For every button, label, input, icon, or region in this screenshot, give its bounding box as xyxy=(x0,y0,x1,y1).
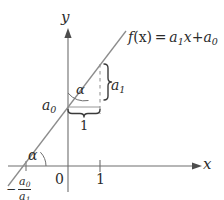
x-intercept-numerator-subscript: 0 xyxy=(26,180,31,189)
function-line xyxy=(8,31,126,186)
y-intercept-label: a0 xyxy=(42,98,56,112)
y-intercept-subscript: 0 xyxy=(50,104,56,115)
equation-intercept-coef: a xyxy=(203,29,211,45)
equation-slope-coef: a xyxy=(169,29,177,45)
y-axis-label: y xyxy=(61,10,69,25)
x-intercept-denominator: a1 xyxy=(18,191,31,200)
x-intercept-numerator: a0 xyxy=(18,176,31,188)
x-intercept-label: −a0a1 xyxy=(6,176,31,200)
run-label: 1 xyxy=(80,119,88,132)
x-tick-label-1: 1 xyxy=(96,172,105,186)
x-intercept-denominator-symbol: a xyxy=(19,190,26,200)
x-axis-label: x xyxy=(203,157,211,172)
run-brace xyxy=(68,110,100,118)
x-intercept-fraction: a0a1 xyxy=(18,176,31,200)
x-axis xyxy=(8,162,202,169)
origin-label: 0 xyxy=(55,172,64,186)
equation-slope-subscript: 1 xyxy=(178,36,184,47)
angle-label-at-x-intercept: α xyxy=(28,148,37,162)
equation-equals: = xyxy=(155,29,167,45)
equation-variable-x: x xyxy=(184,29,192,45)
rise-label: a1 xyxy=(111,78,125,92)
rise-subscript: 1 xyxy=(119,84,125,95)
x-intercept-denominator-subscript: 1 xyxy=(26,195,31,200)
equation-of-x: (x) xyxy=(133,29,152,45)
equation-plus: + xyxy=(192,29,204,45)
y-axis-arrowhead xyxy=(64,28,71,38)
equation-label: f(x) = a1x+a0 xyxy=(128,30,218,44)
x-axis-arrowhead xyxy=(192,162,202,169)
x-intercept-minus-sign: − xyxy=(6,183,16,195)
angle-label-at-y-intercept: α xyxy=(76,83,85,96)
linear-function-figure: y x 0 1 a0 a1 1 α α f(x) = a1x+a0 −a0a1 xyxy=(0,0,224,200)
equation-intercept-subscript: 0 xyxy=(212,36,218,47)
angle-arc-at-x-intercept xyxy=(40,152,46,166)
x-intercept-numerator-symbol: a xyxy=(19,175,26,188)
